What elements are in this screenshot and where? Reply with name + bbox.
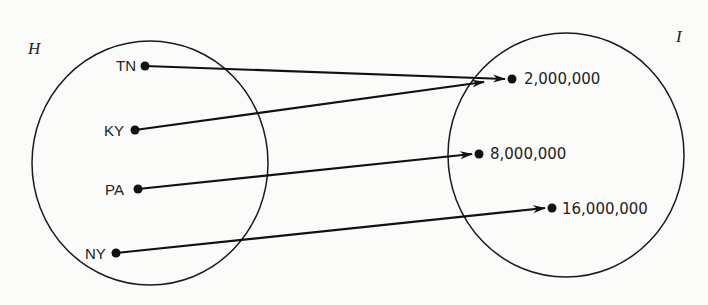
dot-16m: [548, 204, 557, 213]
element-ny-label: NY: [85, 245, 106, 262]
element-tn-label: TN: [116, 57, 136, 74]
arrow-pa-to-8m: [138, 154, 472, 189]
arrow-tn-to-2m: [145, 66, 505, 79]
dot-ny: [112, 249, 121, 258]
element-2m-label: 2,000,000: [524, 70, 600, 88]
arrow-ky-to-2m: [135, 82, 484, 130]
dot-tn: [141, 62, 150, 71]
set-h-label: H: [27, 39, 42, 58]
function-diagram: H I TN KY PA NY 2,000,000: [0, 0, 708, 305]
dot-2m: [508, 75, 517, 84]
diagram-canvas: H I TN KY PA NY 2,000,000: [0, 0, 708, 305]
element-8m-label: 8,000,000: [490, 145, 566, 163]
set-i-label: I: [675, 27, 683, 46]
element-ky-label: KY: [104, 122, 124, 139]
dot-ky: [131, 126, 140, 135]
element-16m-label: 16,000,000: [562, 200, 648, 218]
element-pa-label: PA: [105, 181, 124, 198]
arrow-ny-to-16m: [116, 208, 545, 253]
codomain-elements: 2,000,000 8,000,000 16,000,000: [475, 70, 648, 218]
mapping-arrows: [116, 66, 545, 253]
dot-8m: [475, 150, 484, 159]
domain-elements: TN KY PA NY: [85, 57, 150, 262]
dot-pa: [134, 185, 143, 194]
set-h: H: [27, 39, 268, 285]
